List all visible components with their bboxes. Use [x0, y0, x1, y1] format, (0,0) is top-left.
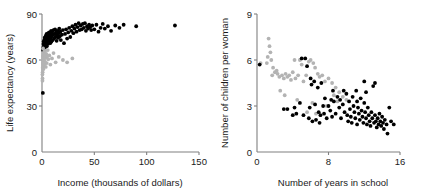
scatter-point — [283, 93, 287, 97]
scatter-point — [337, 106, 341, 110]
scatter-point — [275, 69, 279, 73]
scatter-point — [323, 80, 327, 84]
scatter-point — [320, 73, 324, 77]
scatter-point — [118, 26, 122, 30]
x-tick-label: 100 — [139, 156, 155, 167]
x-tick-label: 150 — [191, 156, 207, 167]
scatter-series-light — [259, 37, 349, 116]
scatter-series-light — [41, 47, 75, 83]
scatter-point — [309, 58, 313, 62]
scatter-point — [380, 115, 384, 119]
y-tick-label: 30 — [26, 101, 37, 112]
scatter-point — [57, 55, 61, 59]
x-tick-label: 0 — [39, 156, 44, 167]
scatter-point — [293, 106, 297, 110]
scatter-point — [361, 115, 365, 119]
x-axis-title: Income (thousands of dollars) — [57, 177, 182, 188]
scatter-point — [357, 112, 361, 116]
scatter-point — [62, 41, 66, 45]
scatter-point — [293, 58, 297, 62]
scatter-point — [271, 66, 275, 70]
scatter-point — [334, 112, 338, 116]
scatter-point — [92, 27, 96, 31]
scatter-point — [373, 113, 377, 117]
scatter-point — [295, 98, 299, 102]
y-axis-title: Life expectancy (years) — [4, 34, 15, 132]
scatter-point — [359, 96, 363, 100]
scatter-point — [358, 118, 362, 122]
scatter-point — [52, 51, 56, 55]
scatter-point — [389, 119, 393, 123]
scatter-point — [267, 37, 271, 41]
scatter-point — [282, 77, 286, 81]
scatter-point — [319, 81, 323, 85]
scatter-point — [382, 127, 386, 131]
y-tick-label: 60 — [26, 55, 37, 66]
scatter-plot-left: 0501001500306090Income (thousands of dol… — [0, 0, 215, 196]
chart-panel-school-vs-children: 08160369Number of years in schoolNumber … — [215, 0, 430, 196]
axes — [257, 14, 400, 152]
scatter-point — [70, 57, 74, 61]
scatter-point — [318, 121, 322, 125]
scatter-point — [282, 107, 286, 111]
scatter-point — [378, 112, 382, 116]
scatter-point — [307, 116, 311, 120]
scatter-point — [327, 104, 331, 108]
scatter-point — [312, 80, 316, 84]
scatter-point — [268, 44, 272, 48]
scatter-point — [54, 60, 58, 64]
scatter-point — [287, 73, 291, 77]
y-tick-label: 0 — [247, 147, 252, 158]
y-tick-label: 90 — [26, 9, 37, 20]
scatter-point — [363, 110, 367, 114]
scatter-point — [362, 101, 366, 105]
scatter-point — [90, 24, 94, 28]
scatter-point — [313, 103, 317, 107]
scatter-point — [364, 90, 368, 94]
scatter-point — [269, 58, 273, 62]
x-tick-label: 50 — [89, 156, 100, 167]
scatter-point — [387, 106, 391, 110]
scatter-point — [303, 57, 307, 61]
scatter-point — [325, 116, 329, 120]
scatter-point — [270, 73, 274, 77]
x-tick-label: 16 — [395, 156, 406, 167]
y-tick-label: 6 — [247, 55, 252, 66]
scatter-point — [106, 24, 110, 28]
scatter-point — [392, 123, 396, 127]
scatter-point — [103, 27, 107, 31]
scatter-point — [314, 118, 318, 122]
scatter-point — [48, 63, 52, 67]
scatter-point — [356, 106, 360, 110]
scatter-point — [101, 22, 105, 26]
scatter-point — [345, 113, 349, 117]
scatter-point — [294, 77, 298, 81]
scatter-point — [386, 132, 390, 136]
y-tick-labels: 0369 — [247, 9, 257, 158]
scatter-point — [308, 106, 312, 110]
scatter-point — [338, 98, 342, 102]
scatter-plot-right: 08160369Number of years in schoolNumber … — [215, 0, 430, 196]
x-tick-labels: 0816 — [254, 152, 405, 167]
y-tick-label: 3 — [247, 101, 252, 112]
scatter-point — [376, 116, 380, 120]
scatter-series-dark — [41, 21, 177, 95]
scatter-point — [349, 115, 353, 119]
scatter-point — [113, 24, 117, 28]
scatter-point — [348, 107, 352, 111]
scatter-point — [266, 55, 270, 59]
scatter-point — [385, 123, 389, 127]
scatter-point — [134, 24, 138, 28]
scatter-point — [369, 124, 373, 128]
scatter-point — [99, 26, 103, 30]
scatter-point — [291, 113, 295, 117]
scatter-point — [383, 118, 387, 122]
scatter-point — [351, 95, 355, 99]
scatter-point — [362, 80, 366, 84]
x-tick-label: 0 — [254, 156, 259, 167]
scatter-point — [319, 113, 323, 117]
scatter-point — [330, 115, 334, 119]
scatter-point — [59, 38, 63, 42]
scatter-point — [61, 58, 65, 62]
scatter-point — [343, 110, 347, 114]
